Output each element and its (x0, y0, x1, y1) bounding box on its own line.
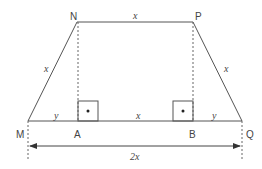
segment-mn (28, 22, 77, 121)
segment-label-ab: x (135, 110, 141, 121)
right-angle-dot-a (87, 110, 90, 113)
right-angle-dot-b (182, 110, 185, 113)
segment-label-np: x (132, 10, 138, 21)
trapezoid-diagram: N P M Q A B x x x y x y 2x (0, 0, 262, 169)
point-label-b: B (189, 129, 196, 140)
segment-label-mn: x (43, 63, 49, 74)
point-label-a: A (74, 129, 81, 140)
segment-label-bq: y (211, 110, 217, 121)
point-label-q: Q (246, 129, 254, 140)
segment-label-pq: x (223, 63, 229, 74)
segment-label-ma: y (53, 110, 59, 121)
point-label-m: M (16, 129, 24, 140)
segment-pq (193, 22, 242, 121)
point-label-p: P (195, 11, 202, 22)
dimension-label-mq: 2x (130, 151, 140, 162)
point-label-n: N (70, 11, 77, 22)
